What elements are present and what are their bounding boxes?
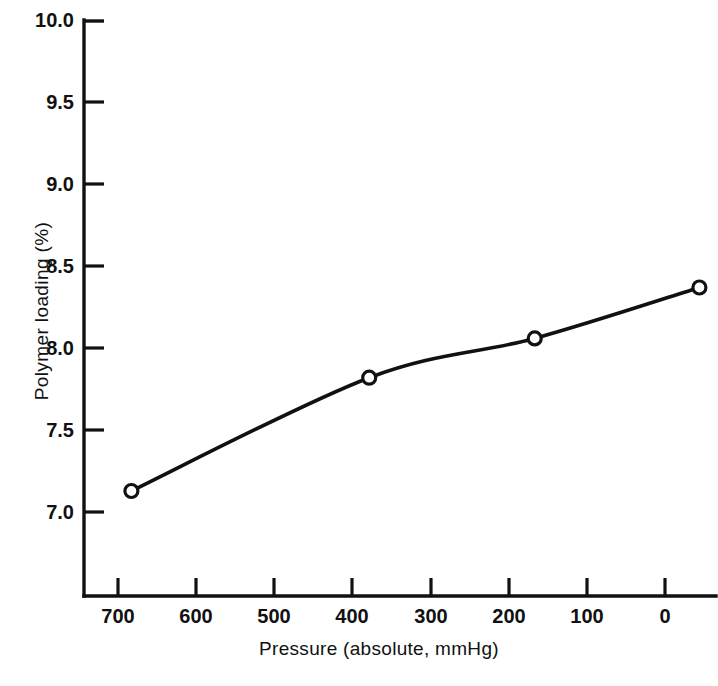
x-tick-label: 0 xyxy=(625,606,705,626)
x-tick-label: 100 xyxy=(547,606,627,626)
x-tick-label: 600 xyxy=(156,606,236,626)
x-axis-tick-labels: 700 600 500 400 300 200 100 0 xyxy=(0,0,718,686)
x-tick-label: 400 xyxy=(312,606,392,626)
x-tick-label: 500 xyxy=(234,606,314,626)
y-axis-title: Polymer loading (%) xyxy=(31,181,53,441)
chart-figure: 10.0 9.5 9.0 8.5 8.0 7.5 7.0 700 600 500… xyxy=(0,0,718,686)
x-axis-title: Pressure (absolute, mmHg) xyxy=(84,638,674,660)
x-tick-label: 700 xyxy=(78,606,158,626)
x-tick-label: 300 xyxy=(391,606,471,626)
x-tick-label: 200 xyxy=(469,606,549,626)
